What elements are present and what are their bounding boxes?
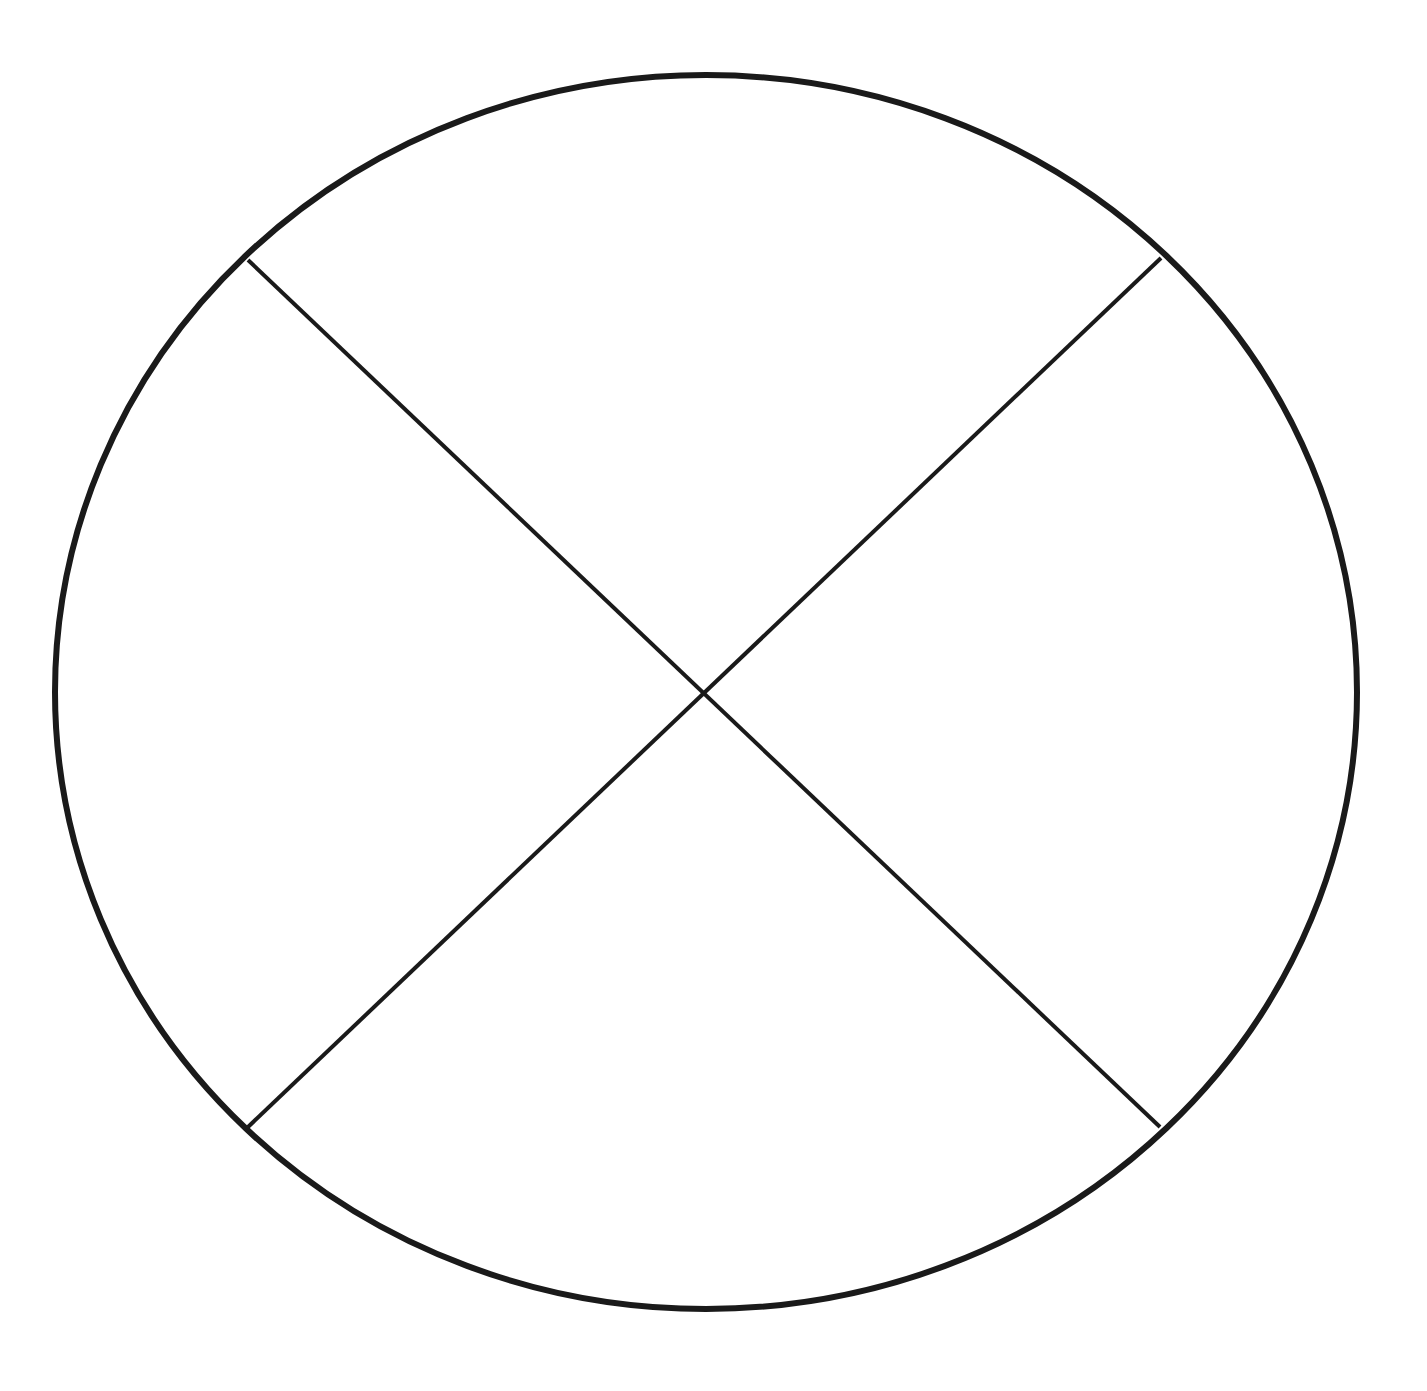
circle-quadrant-diagram — [0, 0, 1427, 1391]
diagram-background — [0, 0, 1427, 1391]
